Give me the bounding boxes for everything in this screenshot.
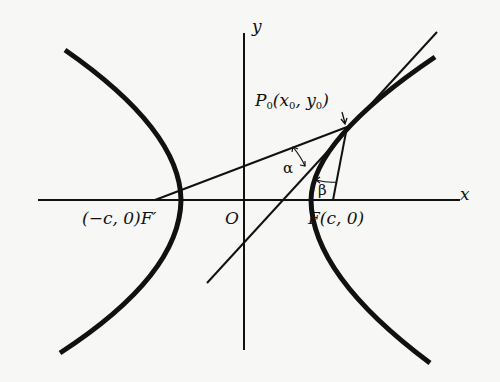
alpha-label: α — [283, 161, 293, 176]
point-p0-label: P0(x0, y0) — [255, 92, 329, 111]
x-axis-label: x — [460, 186, 470, 203]
origin-label: O — [225, 210, 239, 227]
beta-label: β — [318, 183, 327, 198]
right-focus-label: F(c, 0) — [308, 210, 364, 227]
diagram-canvas — [0, 0, 500, 382]
hyperbola-left-branch — [60, 50, 181, 353]
y-axis-label: y — [252, 18, 262, 35]
hyperbola-diagram: y x O (−c, 0)F′ F(c, 0) P0(x0, y0) α β — [0, 0, 500, 382]
left-focus-label: (−c, 0)F′ — [82, 210, 156, 227]
alpha-arc-icon — [293, 147, 305, 166]
